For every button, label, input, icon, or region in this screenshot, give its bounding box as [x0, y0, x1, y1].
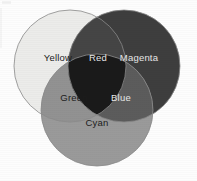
label-blue: Blue [111, 92, 131, 103]
scan-artifact-top-left [2, 1, 11, 4]
label-red: Red [89, 52, 107, 63]
label-green: Green [60, 92, 87, 103]
label-magenta: Magenta [120, 52, 159, 63]
venn-diagram-svg: Yellow Red Magenta Green Blue Cyan [0, 0, 197, 181]
label-cyan: Cyan [86, 117, 109, 128]
label-yellow: Yellow [44, 52, 72, 63]
venn-diagram-canvas: Yellow Red Magenta Green Blue Cyan [0, 0, 197, 181]
scan-artifact-left-edge [0, 8, 2, 48]
